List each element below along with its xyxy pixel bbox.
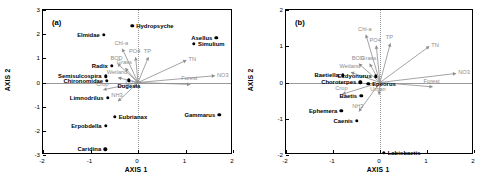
env-vector-arrowhead [377,91,381,94]
y-tick-label: 0 [273,78,283,85]
y-tick [43,58,46,59]
y-tick [43,107,46,108]
species-label: Limnodrilus [70,95,104,101]
env-vector-label: Wetland [107,69,128,75]
species-label: Caridina [78,146,102,152]
x-tick-label: 1 [183,157,186,164]
x-tick-label: -1 [87,157,93,164]
y-tick [286,83,289,84]
species-label: Labiobaetis [388,150,421,156]
env-vector-line [138,83,190,85]
species-point [382,151,385,154]
y-tick-label: 3 [30,6,40,13]
env-vector-arrowhead [429,85,432,89]
env-vector-line [138,76,215,83]
x-tick-label: 2 [471,157,474,164]
species-label: Ephemera [309,108,337,114]
env-vector-label: Forest [424,78,440,84]
env-vector-arrowhead [388,43,392,47]
species-label: Elmidae [77,32,100,38]
x-tick [333,150,334,153]
env-vector-label: PO4 [129,48,140,54]
x-tick-label: 0 [135,157,138,164]
y-tick [286,10,289,11]
env-vector-label: Crop [335,85,347,91]
env-vector-arrowhead [187,82,190,86]
species-label: Erpobdella [71,123,101,129]
species-label: Simulium [198,41,225,47]
env-vector-label: NO3 [458,69,470,75]
y-tick-label: -1 [30,102,40,109]
env-vector-label: Forest [181,75,197,81]
env-vector-label: Wetland [339,63,360,69]
y-tick-label: 0 [30,78,40,85]
y-tick-label: 2 [273,6,283,13]
species-label: Baetis [339,93,357,99]
x-tick [380,150,381,153]
env-vector-label: NH3 [111,92,122,98]
y-tick [43,83,46,84]
env-vector-label: NO3 [217,72,229,78]
y-tick [286,46,289,47]
y-axis-title-b: AXIS 2 [247,69,254,92]
species-label: Gammarus [184,112,215,118]
y-tick [286,119,289,120]
env-vector-label: NH3 [352,103,363,109]
x-tick-label: -1 [329,157,335,164]
env-vector-label: PO4 [370,37,381,43]
species-label: Radix [92,63,108,69]
env-vector-label: Grass [117,59,132,65]
species-label: Choroterpes [321,79,356,85]
species-label: Eubrianax [119,114,147,120]
env-vector-arrowhead [118,77,122,81]
y-axis-title-a: AXIS 2 [4,69,11,92]
x-tick [474,150,475,153]
species-label: Baetiella [315,72,339,78]
env-vector-label: Urban [370,86,386,92]
env-vector-line [380,46,429,82]
env-vector-label: Chl-a [115,40,129,46]
y-tick [43,131,46,132]
species-label: Caenis [334,118,353,124]
species-label: Chironomidae [63,78,103,84]
y-tick-label: 1 [30,54,40,61]
x-tick [186,150,187,153]
x-tick [286,150,287,153]
y-tick-label: 1 [273,42,283,49]
y-tick-label: 2 [30,30,40,37]
x-tick-label: -2 [39,157,45,164]
env-vector-arrowhead [134,57,138,60]
panel-b: (b) AXIS 1 AXIS 2 -2-1012210-1-2Chl-aPO4… [241,0,481,180]
species-label: Dugesia [117,83,140,89]
x-tick [43,150,44,153]
x-tick [427,150,428,153]
env-vector-label: TN [431,42,439,48]
x-tick [233,150,234,153]
env-vector-arrowhead [375,46,379,49]
env-vector-arrowhead [103,87,107,91]
env-vector-arrowhead [426,46,430,49]
panel-label-b: (b) [295,18,305,27]
env-vector-label: Grass [361,55,376,61]
panel-label-a: (a) [52,18,61,27]
y-tick-label: -2 [273,151,283,158]
y-tick-label: -1 [273,114,283,121]
env-vector-arrowhead [212,74,215,78]
y-tick [43,10,46,11]
env-vector-label: TN [188,56,196,62]
x-tick-label: 2 [230,157,233,164]
env-vector-label: Chl-a [358,26,372,32]
x-tick-label: -2 [282,157,288,164]
y-tick [286,155,289,156]
x-tick-label: 0 [377,157,380,164]
env-vector-label: TP [386,34,393,40]
x-tick-label: 1 [424,157,427,164]
y-tick-label: -3 [30,151,40,158]
panel-a: (a) AXIS 1 AXIS 2 -2-10123210-1-2-3Chl-a… [0,0,240,180]
env-vector-arrowhead [365,35,369,39]
ordination-figure: (a) AXIS 1 AXIS 2 -2-10123210-1-2-3Chl-a… [0,0,481,180]
y-tick [43,155,46,156]
species-label: Hydropsyche [136,23,173,29]
x-axis-title-a: AXIS 1 [125,166,148,173]
y-tick [43,34,46,35]
